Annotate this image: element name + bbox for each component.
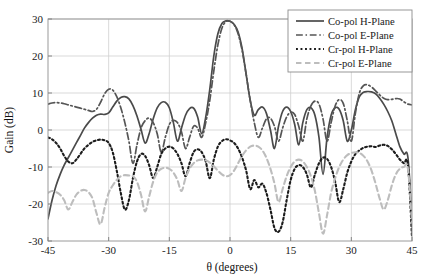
- antenna-radiation-pattern-chart: -45-30-150153045-30-20-100102030 Co-pol …: [0, 0, 424, 278]
- legend-label-3: Cr-pol E-Plane: [328, 58, 392, 69]
- x-tick-label: 0: [227, 244, 233, 256]
- y-tick-label: -10: [28, 161, 43, 173]
- y-tick-label: 20: [32, 50, 44, 62]
- x-tick-label: 15: [285, 244, 297, 256]
- legend: Co-pol H-PlaneCo-pol E-PlaneCr-pol H-Pla…: [288, 10, 412, 72]
- x-tick-label: -30: [101, 244, 116, 256]
- legend-label-0: Co-pol H-Plane: [328, 16, 395, 27]
- x-axis-label: θ (degrees): [206, 261, 257, 274]
- x-tick-label: 45: [407, 244, 419, 256]
- y-tick-label: 0: [38, 124, 44, 136]
- legend-label-1: Co-pol E-Plane: [328, 30, 394, 41]
- y-axis-label: Gain (dB): [3, 107, 16, 153]
- y-tick-label: -20: [28, 198, 43, 210]
- legend-label-2: Cr-pol H-Plane: [328, 44, 393, 55]
- x-tick-label: 30: [346, 244, 358, 256]
- y-tick-label: 30: [32, 13, 44, 25]
- x-tick-label: -15: [162, 244, 177, 256]
- y-tick-label: 10: [32, 87, 44, 99]
- plot-svg: -45-30-150153045-30-20-100102030 Co-pol …: [0, 0, 424, 278]
- y-tick-label: -30: [28, 235, 43, 247]
